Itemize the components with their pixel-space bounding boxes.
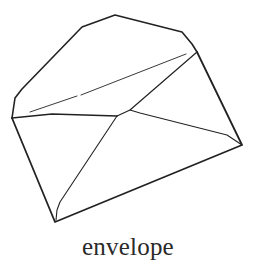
envelope-right-fold [130, 110, 242, 145]
envelope-diagonal-fold [117, 52, 197, 116]
envelope-top-edge [12, 114, 117, 118]
caption-label: envelope [0, 232, 256, 262]
envelope-flap-outline [12, 15, 197, 118]
envelope-flap-crease-left [30, 96, 77, 112]
envelope-bottom-fold [56, 116, 117, 220]
envelope-icon [0, 0, 256, 269]
